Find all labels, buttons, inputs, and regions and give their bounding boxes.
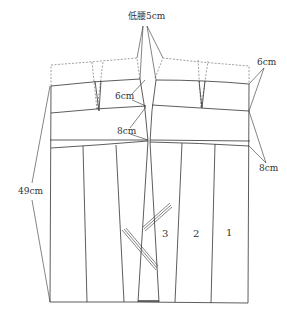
right-hip-line (150, 140, 250, 141)
left-dart-dashed (92, 62, 103, 110)
center-lower-measure-label: 8cm (117, 127, 136, 136)
left-center-seam (138, 79, 148, 302)
left-slash-line-2 (116, 145, 124, 302)
right-top-measure-label: 6cm (257, 58, 276, 67)
left-slash-line-1 (83, 146, 87, 302)
right-hip-curve (150, 142, 249, 146)
right-hem (138, 302, 248, 303)
right-waist-line (156, 80, 249, 84)
panel-number-1: 1 (226, 228, 232, 238)
panel-number-2: 2 (193, 229, 199, 239)
right-panel (138, 58, 250, 303)
left-side-seam (50, 86, 51, 302)
right-slash-line-1 (175, 143, 182, 302)
right-side-seam (248, 84, 249, 303)
low-waist-label: 低腰5cm (128, 12, 165, 21)
leader-lines (32, 26, 266, 302)
right-slash-line-2 (211, 144, 215, 303)
pattern-diagram (0, 0, 287, 322)
left-hip-curve (51, 141, 148, 148)
right-lower-measure-label: 8cm (259, 164, 278, 173)
right-center-seam (150, 80, 159, 302)
panel-number-3: 3 (162, 229, 168, 239)
center-upper-measure-label: 6cm (115, 92, 134, 101)
length-measure-label: 49cm (18, 187, 43, 196)
left-dart (95, 81, 101, 111)
